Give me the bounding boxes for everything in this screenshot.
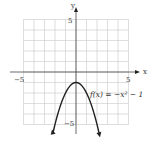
- x-axis-arrow-icon: [135, 70, 140, 74]
- axes: [10, 7, 140, 134]
- curve-arrow-icon: [96, 132, 101, 137]
- x-tick-neg5: −5: [14, 76, 24, 84]
- function-label: f(x) = −x² − 1: [89, 90, 143, 99]
- y-tick-neg5: −5: [64, 120, 74, 128]
- graph-canvas: x y −5 5 5 −5 f(x) = −x² − 1: [0, 0, 149, 143]
- y-axis-label: y: [70, 2, 75, 10]
- x-tick-pos5: 5: [126, 76, 130, 84]
- x-axis-label: x: [143, 68, 147, 76]
- y-tick-pos5: 5: [68, 17, 72, 25]
